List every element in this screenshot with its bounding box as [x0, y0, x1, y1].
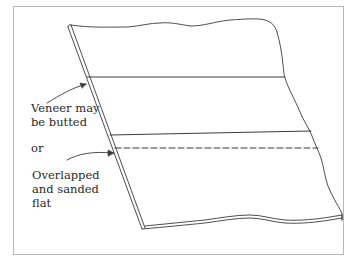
board-top-left-corner [68, 25, 71, 27]
label-overlap-line3: flat [32, 196, 100, 210]
seam-upper [110, 131, 311, 135]
arrow-butted-head [80, 83, 86, 88]
board-right-edge [277, 32, 342, 220]
label-overlap-line1: Overlapped [32, 168, 100, 182]
board-bottom-edge-top [145, 215, 342, 226]
arrow-overlap-shaft [67, 152, 113, 160]
label-or-text: or [31, 141, 43, 155]
label-overlapped-sanded: Overlapped and sanded flat [32, 168, 100, 210]
board-top-edge [71, 19, 277, 32]
label-butted-line2: be butted [31, 115, 99, 129]
label-overlap-line2: and sanded [32, 182, 100, 196]
veneer-board-diagram [0, 0, 354, 269]
label-butted-line1: Veneer may [31, 101, 99, 115]
label-veneer-butted: Veneer may be butted [31, 101, 99, 129]
label-or: or [31, 141, 43, 155]
